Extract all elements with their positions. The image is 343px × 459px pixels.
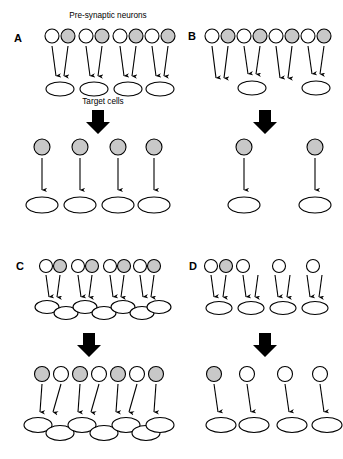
target-cell <box>312 418 342 433</box>
neuron-shaded <box>161 29 175 43</box>
target-cell <box>114 82 142 96</box>
panel-b-label: B <box>188 30 196 42</box>
neuron-shaded <box>220 260 233 273</box>
neuron-unshaded <box>237 260 250 273</box>
presynaptic-neurons-label: Pre-synaptic neurons <box>69 11 146 20</box>
target-cell <box>228 197 260 213</box>
target-cell <box>270 302 296 315</box>
target-cell <box>146 418 174 433</box>
neuron-unshaded <box>237 29 251 43</box>
target-cell <box>239 418 269 433</box>
target-cell <box>26 197 58 213</box>
target-cell <box>147 301 171 314</box>
neuron-shaded <box>236 139 252 155</box>
panel-a-label: A <box>14 32 22 44</box>
neuron-shaded <box>61 29 75 43</box>
neuron-unshaded <box>313 367 328 382</box>
neuron-shaded <box>129 29 143 43</box>
neuron-unshaded <box>113 29 127 43</box>
target-cell <box>206 418 236 433</box>
neuron-unshaded <box>307 260 320 273</box>
target-cell <box>299 197 331 213</box>
neuron-shaded <box>317 29 331 43</box>
neuron-shaded <box>86 260 99 273</box>
figure-background <box>0 0 343 459</box>
neuron-unshaded <box>240 367 255 382</box>
neuron-unshaded <box>92 367 107 382</box>
neuron-shaded <box>149 367 164 382</box>
neuron-shaded <box>72 139 88 155</box>
neuron-shaded <box>221 29 235 43</box>
neuron-unshaded <box>54 367 69 382</box>
neuron-shaded <box>34 139 50 155</box>
target-cell <box>80 82 108 96</box>
synaptic-pruning-diagram: Pre-synaptic neurons Target cells A <box>0 0 343 459</box>
neuron-shaded <box>95 29 109 43</box>
neuron-unshaded <box>40 260 53 273</box>
neuron-unshaded <box>205 260 218 273</box>
panel-c-label: C <box>16 260 24 272</box>
target-cell <box>206 302 232 315</box>
neuron-unshaded <box>72 260 85 273</box>
target-cell <box>238 81 266 95</box>
neuron-shaded <box>111 367 126 382</box>
neuron-shaded <box>35 367 50 382</box>
neuron-unshaded <box>130 367 145 382</box>
neuron-shaded <box>73 367 88 382</box>
neuron-shaded <box>253 29 267 43</box>
neuron-shaded <box>148 260 161 273</box>
target-cell <box>64 197 96 213</box>
neuron-unshaded <box>278 367 293 382</box>
neuron-shaded <box>307 139 323 155</box>
neuron-unshaded <box>79 29 93 43</box>
neuron-unshaded <box>269 29 283 43</box>
neuron-unshaded <box>301 29 315 43</box>
target-cell <box>138 197 170 213</box>
neuron-unshaded <box>205 29 219 43</box>
neuron-shaded <box>110 139 126 155</box>
neuron-unshaded <box>45 29 59 43</box>
target-cell <box>102 197 134 213</box>
neuron-shaded <box>118 260 131 273</box>
target-cell <box>46 82 74 96</box>
panel-d-label: D <box>189 260 197 272</box>
neuron-shaded <box>285 29 299 43</box>
neuron-unshaded <box>134 260 147 273</box>
target-cell <box>302 302 328 315</box>
figure-root: Pre-synaptic neurons Target cells A <box>0 0 343 459</box>
target-cells-label: Target cells <box>82 97 123 106</box>
neuron-shaded <box>207 367 222 382</box>
neuron-unshaded <box>273 260 286 273</box>
neuron-shaded <box>146 139 162 155</box>
target-cell <box>302 81 330 95</box>
target-cell <box>238 302 264 315</box>
target-cell <box>146 82 174 96</box>
target-cell <box>277 418 307 433</box>
neuron-shaded <box>54 260 67 273</box>
neuron-unshaded <box>145 29 159 43</box>
neuron-unshaded <box>104 260 117 273</box>
